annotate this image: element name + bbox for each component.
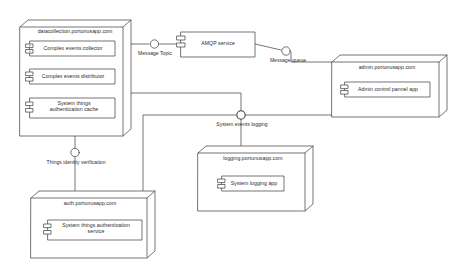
diagram-drawing-layer [0,0,454,272]
component-box-admin-control-pannel-app [341,82,430,97]
component-box-system-things-authentication-service [44,220,142,240]
interface-ball-system-events-logging [237,111,245,119]
component-box-system-logging-app [218,176,284,191]
component-box-complex-events-distributor [26,69,115,84]
connector-things-identity-verification [71,131,79,191]
component-box-amqp-service [177,32,255,57]
connector-message-topic [125,40,176,48]
diagram-canvas: datacollection.portunusapp.com Complex e… [0,0,454,272]
connector-message-queue [255,44,332,62]
component-box-system-things-authentication-cache [26,98,115,118]
component-box-complex-events-collector [26,41,115,56]
connector-events-logging-from-datacollection [125,93,241,110]
